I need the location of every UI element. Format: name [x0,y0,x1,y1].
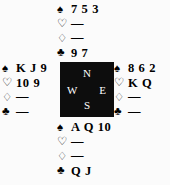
compass-label-east: E [99,84,106,95]
compass-box: N W E S [60,62,114,117]
heart-icon: ♡ [114,77,125,89]
spade-icon: ♠ [57,122,68,134]
east-hearts-row: ♡ K Q [114,76,156,91]
bridge-deal-diagram: ♠ 7 5 3 ♡ — ♢ — ♣ 9 7 ♠ K J 9 ♡ 10 9 ♢ — [0,0,170,185]
north-diamonds-cards: — [68,31,84,44]
north-spades-row: ♠ 7 5 3 [57,2,99,17]
south-spades-row: ♠ A Q 10 [57,120,111,135]
east-spades-cards: 8 6 2 [125,62,156,75]
hand-north: ♠ 7 5 3 ♡ — ♢ — ♣ 9 7 [57,2,99,60]
south-spades-cards: A Q 10 [68,121,111,134]
spade-icon: ♠ [114,63,125,75]
club-icon: ♣ [114,106,125,118]
club-icon: ♣ [57,165,68,177]
heart-icon: ♡ [57,136,68,148]
spade-icon: ♠ [2,63,13,75]
club-icon: ♣ [2,106,13,118]
west-clubs-cards: — [13,105,29,118]
west-diamonds-row: ♢ — [2,90,47,105]
south-clubs-row: ♣ Q J [57,164,111,179]
east-clubs-cards: — [125,105,141,118]
hand-south: ♠ A Q 10 ♡ — ♢ — ♣ Q J [57,120,111,178]
east-diamonds-row: ♢ — [114,90,156,105]
diamond-icon: ♢ [57,151,68,163]
north-spades-cards: 7 5 3 [68,3,99,16]
compass-label-west: W [67,84,77,95]
west-hearts-row: ♡ 10 9 [2,76,47,91]
hand-west: ♠ K J 9 ♡ 10 9 ♢ — ♣ — [2,61,47,119]
spade-icon: ♠ [57,4,68,16]
west-clubs-row: ♣ — [2,105,47,120]
north-diamonds-row: ♢ — [57,31,99,46]
west-hearts-cards: 10 9 [13,77,40,90]
south-diamonds-cards: — [68,149,84,162]
south-diamonds-row: ♢ — [57,149,111,164]
west-diamonds-cards: — [13,90,29,103]
west-spades-cards: K J 9 [13,62,47,75]
heart-icon: ♡ [2,77,13,89]
heart-icon: ♡ [57,18,68,30]
east-hearts-cards: K Q [125,77,152,90]
east-clubs-row: ♣ — [114,105,156,120]
north-hearts-cards: — [68,17,84,30]
club-icon: ♣ [57,47,68,59]
compass-label-north: N [83,68,91,79]
south-hearts-row: ♡ — [57,135,111,150]
east-spades-row: ♠ 8 6 2 [114,61,156,76]
north-clubs-row: ♣ 9 7 [57,46,99,61]
north-hearts-row: ♡ — [57,17,99,32]
hand-east: ♠ 8 6 2 ♡ K Q ♢ — ♣ — [114,61,156,119]
south-hearts-cards: — [68,135,84,148]
diamond-icon: ♢ [2,92,13,104]
east-diamonds-cards: — [125,90,141,103]
north-clubs-cards: 9 7 [68,47,88,60]
south-clubs-cards: Q J [68,165,92,178]
compass-label-south: S [84,100,90,111]
diamond-icon: ♢ [114,92,125,104]
diamond-icon: ♢ [57,33,68,45]
west-spades-row: ♠ K J 9 [2,61,47,76]
